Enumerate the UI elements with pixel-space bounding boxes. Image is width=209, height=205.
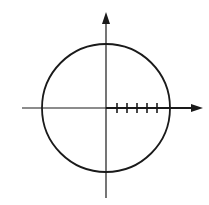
y-axis-arrow-icon [102,12,110,24]
x-axis-arrow-icon [191,104,203,112]
x-axis [22,104,203,112]
diagram-canvas [0,0,209,205]
y-axis [102,12,110,198]
